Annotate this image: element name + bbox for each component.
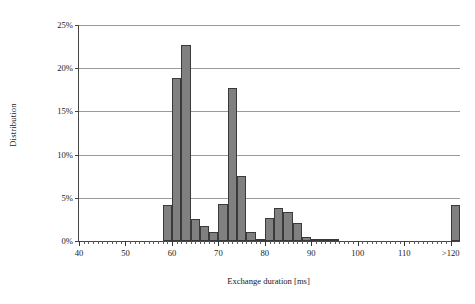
histogram-bar	[228, 88, 237, 241]
x-tick-minor	[204, 241, 205, 244]
x-tick-minor	[121, 241, 122, 244]
x-tick-minor	[274, 241, 275, 244]
x-tick-minor	[353, 241, 354, 244]
histogram-bar	[256, 239, 265, 241]
histogram-bar	[302, 237, 311, 241]
x-tick-minor	[339, 241, 340, 244]
x-tick-minor	[283, 241, 284, 244]
gridline	[79, 111, 460, 112]
x-tick-minor	[88, 241, 89, 244]
gridline	[79, 155, 460, 156]
x-tick-minor	[367, 241, 368, 244]
x-tick-major	[358, 241, 359, 246]
x-tick-minor	[293, 241, 294, 244]
x-tick-major	[311, 241, 312, 246]
histogram-bar	[311, 239, 320, 241]
histogram-bar	[283, 212, 292, 241]
x-tick-minor	[251, 241, 252, 244]
x-tick-major	[265, 241, 266, 246]
x-tick-minor	[237, 241, 238, 244]
x-tick-label: 110	[398, 248, 411, 258]
x-tick-minor	[107, 241, 108, 244]
histogram-bar	[172, 78, 181, 241]
x-tick-minor	[270, 241, 271, 244]
x-tick-minor	[432, 241, 433, 244]
y-axis-title-text: Distribution	[8, 103, 18, 147]
x-tick-minor	[381, 241, 382, 244]
x-tick-minor	[177, 241, 178, 244]
histogram-bar	[246, 232, 255, 242]
x-tick-minor	[335, 241, 336, 244]
x-tick-minor	[195, 241, 196, 244]
y-tick-label: 15%	[57, 106, 73, 116]
x-tick-minor	[414, 241, 415, 244]
x-tick-minor	[260, 241, 261, 244]
x-tick-major	[404, 241, 405, 246]
x-tick-minor	[386, 241, 387, 244]
x-tick-minor	[112, 241, 113, 244]
x-tick-major	[172, 241, 173, 246]
x-tick-minor	[279, 241, 280, 244]
x-tick-label: 70	[214, 248, 223, 258]
histogram-bar	[163, 205, 172, 241]
x-tick-label: 50	[121, 248, 130, 258]
x-tick-minor	[135, 241, 136, 244]
histogram-bar	[191, 219, 200, 241]
x-tick-minor	[256, 241, 257, 244]
y-axis-title: Distribution	[4, 0, 22, 250]
x-tick-minor	[423, 241, 424, 244]
x-tick-minor	[232, 241, 233, 244]
x-tick-minor	[344, 241, 345, 244]
x-tick-minor	[307, 241, 308, 244]
histogram-bar	[218, 204, 227, 241]
x-tick-major	[79, 241, 80, 246]
x-tick-minor	[390, 241, 391, 244]
y-tick-label: 0%	[62, 236, 73, 246]
x-tick-major	[218, 241, 219, 246]
x-tick-minor	[93, 241, 94, 244]
x-tick-minor	[446, 241, 447, 244]
x-tick-minor	[441, 241, 442, 244]
x-tick-minor	[297, 241, 298, 244]
x-tick-minor	[325, 241, 326, 244]
histogram-bar	[274, 208, 283, 241]
x-tick-minor	[400, 241, 401, 244]
x-tick-major	[125, 241, 126, 246]
x-tick-minor	[427, 241, 428, 244]
y-tick-mark	[75, 111, 79, 112]
x-tick-minor	[186, 241, 187, 244]
x-tick-minor	[163, 241, 164, 244]
x-tick-minor	[144, 241, 145, 244]
y-tick-label: 10%	[57, 150, 73, 160]
histogram-bar	[451, 205, 460, 241]
y-tick-mark	[75, 155, 79, 156]
x-tick-minor	[102, 241, 103, 244]
x-tick-minor	[84, 241, 85, 244]
x-tick-label: 90	[307, 248, 316, 258]
x-axis-title: Exchange duration [ms]	[78, 276, 459, 286]
gridline	[79, 198, 460, 199]
x-tick-minor	[409, 241, 410, 244]
x-tick-minor	[302, 241, 303, 244]
histogram-bar	[200, 226, 209, 241]
y-tick-mark	[75, 68, 79, 69]
x-tick-minor	[149, 241, 150, 244]
x-tick-minor	[246, 241, 247, 244]
y-tick-mark	[75, 25, 79, 26]
histogram-bar	[330, 239, 339, 241]
gridline	[79, 25, 460, 26]
y-tick-label: 25%	[57, 20, 73, 30]
x-tick-minor	[376, 241, 377, 244]
x-tick-minor	[181, 241, 182, 244]
x-tick-minor	[98, 241, 99, 244]
x-tick-label: 100	[351, 248, 364, 258]
x-tick-minor	[288, 241, 289, 244]
x-tick-label: 40	[75, 248, 84, 258]
gridline	[79, 68, 460, 69]
x-tick-minor	[348, 241, 349, 244]
x-tick-minor	[116, 241, 117, 244]
x-tick-minor	[223, 241, 224, 244]
x-tick-minor	[209, 241, 210, 244]
y-tick-mark	[75, 198, 79, 199]
x-tick-minor	[372, 241, 373, 244]
